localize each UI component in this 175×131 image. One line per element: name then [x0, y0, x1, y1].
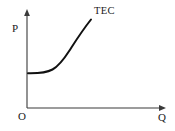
- tec-curve-path: [28, 20, 91, 74]
- y-axis-arrowhead-icon: [24, 9, 30, 16]
- figure-container: P Q O TEC: [0, 0, 175, 131]
- tec-curve-label: TEC: [94, 6, 115, 17]
- x-axis-label: Q: [158, 112, 166, 123]
- y-axis-label: P: [12, 23, 18, 34]
- cost-curve-plot: [0, 0, 175, 131]
- origin-label: O: [18, 111, 26, 122]
